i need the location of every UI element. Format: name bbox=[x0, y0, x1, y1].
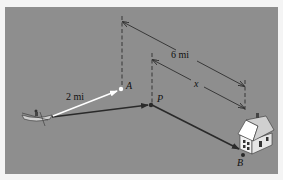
dimension-x bbox=[153, 60, 244, 108]
house-icon bbox=[238, 113, 274, 154]
label-point-P: P bbox=[156, 93, 163, 104]
rowboat-icon bbox=[22, 110, 52, 127]
label-point-B: B bbox=[237, 157, 243, 168]
label-6mi: 6 mi bbox=[171, 49, 189, 60]
label-2mi: 2 mi bbox=[66, 91, 84, 102]
label-x: x bbox=[193, 78, 199, 89]
label-point-A: A bbox=[125, 80, 133, 91]
point-P-marker bbox=[149, 103, 153, 107]
point-A-marker bbox=[119, 87, 123, 91]
path-P-to-B bbox=[152, 105, 239, 149]
diagram-canvas: 2 mi 6 mi x A P B bbox=[0, 0, 283, 180]
